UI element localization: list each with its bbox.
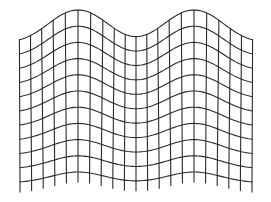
vertical-grid-line: [147, 34, 148, 190]
vertical-grid-line: [158, 28, 159, 188]
vertical-grid-line: [31, 36, 32, 191]
vertical-grid-line: [229, 29, 231, 189]
vertical-grid-line: [42, 29, 44, 189]
vertical-grid-line: [19, 40, 20, 192]
vertical-grid-line: [252, 40, 253, 192]
vertical-grid-line: [240, 36, 241, 191]
vertical-grid-line: [124, 34, 125, 190]
vertical-grid-line: [113, 28, 114, 188]
warped-grid-figure: [0, 0, 271, 202]
vertical-grid-lines: [19, 10, 252, 192]
